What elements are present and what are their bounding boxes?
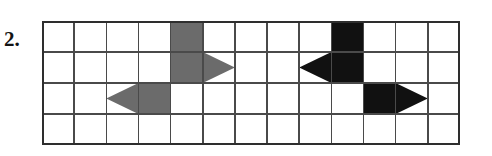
black-arrow-left-head [299,52,331,83]
gray-arrow-left-body [138,83,170,114]
gray-arrow-left-head [106,83,138,114]
gray-arrow-right-head [203,52,235,83]
grid-svg [42,21,460,145]
item-number-label: 2. [4,26,38,52]
black-arrow-right-head [396,83,428,114]
black-arrow-right-body [364,83,396,114]
grid-area [42,21,460,145]
grid-lines [42,21,460,145]
worksheet-item: 2. [0,0,492,156]
